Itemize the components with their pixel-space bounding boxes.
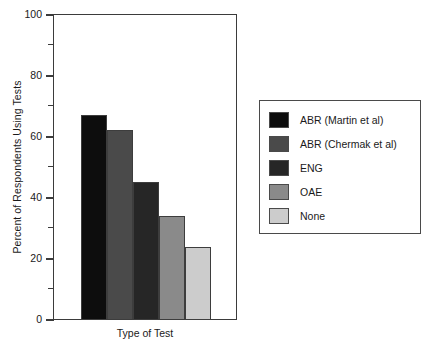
y-tick-label-40: 40 xyxy=(6,192,42,203)
bar-abr-chermak xyxy=(107,130,133,320)
bar-eng xyxy=(133,182,159,320)
bar-abr-martin xyxy=(81,115,107,320)
legend-label-none: None xyxy=(300,210,325,222)
y-tick-label-20: 20 xyxy=(6,253,42,264)
bar-series xyxy=(53,14,237,320)
y-tick-label-100: 100 xyxy=(6,9,42,20)
legend-item-abr-chermak: ABR (Chermak et al) xyxy=(260,132,420,156)
legend-label-abr-chermak: ABR (Chermak et al) xyxy=(300,138,397,150)
legend-label-eng: ENG xyxy=(300,162,323,174)
y-axis-title: Percent of Respondents Using Tests xyxy=(8,14,26,320)
legend-swatch-abr-chermak xyxy=(269,136,289,152)
legend-item-eng: ENG xyxy=(260,156,420,180)
y-tick-label-80: 80 xyxy=(6,70,42,81)
bar-oae xyxy=(159,216,185,320)
legend-item-abr-martin: ABR (Martin et al) xyxy=(260,108,420,132)
x-axis-title: Type of Test xyxy=(53,327,237,339)
legend-item-oae: OAE xyxy=(260,180,420,204)
bar-chart-figure: Percent of Respondents Using Tests 100 8… xyxy=(0,0,440,349)
legend-swatch-oae xyxy=(269,184,289,200)
legend-swatch-abr-martin xyxy=(269,112,289,128)
chart-legend: ABR (Martin et al) ABR (Chermak et al) E… xyxy=(259,100,421,234)
legend-label-abr-martin: ABR (Martin et al) xyxy=(300,114,383,126)
legend-swatch-none xyxy=(269,208,289,224)
legend-label-oae: OAE xyxy=(300,186,322,198)
y-tick-label-0: 0 xyxy=(6,314,42,325)
y-tick-label-60: 60 xyxy=(6,131,42,142)
legend-swatch-eng xyxy=(269,160,289,176)
legend-item-none: None xyxy=(260,204,420,228)
bar-none xyxy=(185,247,211,320)
